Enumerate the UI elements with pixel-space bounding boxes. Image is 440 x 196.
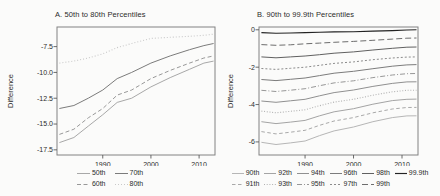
panel-b: B. 90th to 99.9th Percentiles Difference…	[220, 0, 440, 196]
legend-line-sample-97th	[330, 181, 342, 188]
legend-item-94th: 94th	[297, 168, 325, 178]
legend-label-80th: 80th	[130, 179, 144, 189]
legend-line-sample-94th	[297, 170, 309, 177]
legend-item-70th: 70th	[115, 168, 144, 178]
y-tick-label: -12.5	[37, 95, 53, 102]
y-tick-label: -17.5	[37, 146, 53, 153]
panel-b-legend: 90th91th92th93th94th95th96th97th98th99th…	[220, 168, 440, 189]
legend-label-97th: 97th	[344, 179, 358, 189]
legend-line-sample-80th	[115, 181, 128, 188]
legend-label-94th: 94th	[311, 168, 325, 178]
y-tick-label: -6	[249, 138, 255, 145]
legend-item-98th: 98th	[362, 168, 390, 178]
legend-label-96th: 96th	[344, 168, 358, 178]
x-tick-label: 2000	[346, 161, 362, 167]
panel-a-plot: -7.5-10.0-12.5-15.0-17.5199020002010	[0, 0, 220, 166]
legend-line-sample-93th	[264, 181, 276, 188]
x-tick-label: 1990	[297, 161, 313, 167]
legend-label-60th: 60th	[92, 179, 106, 189]
legend-label-70th: 70th	[130, 168, 144, 178]
series-line-70th	[59, 44, 213, 109]
legend-label-99.9th: 99.9th	[409, 168, 428, 178]
panel-a-legend: 50th60th70th80th	[0, 168, 220, 189]
legend-line-sample-99.9th	[395, 170, 407, 177]
legend-line-sample-50th	[77, 170, 90, 177]
y-tick-label: -10.0	[37, 69, 53, 76]
legend-label-92th: 92th	[278, 168, 292, 178]
legend-line-sample-90th	[232, 170, 244, 177]
legend-item-95th: 95th	[297, 179, 325, 189]
legend-label-98th: 98th	[376, 168, 390, 178]
legend-item-90th: 90th	[232, 168, 260, 178]
legend-item-80th: 80th	[115, 179, 144, 189]
legend-item-50th: 50th	[77, 168, 106, 178]
series-line-50th	[59, 61, 213, 143]
legend-label-50th: 50th	[92, 168, 106, 178]
series-line-99.9th	[261, 30, 416, 33]
legend-label-90th: 90th	[246, 168, 260, 178]
legend-label-91th: 91th	[246, 179, 260, 189]
legend-line-sample-98th	[362, 170, 374, 177]
series-line-94th	[261, 82, 416, 103]
legend-line-sample-60th	[77, 181, 90, 188]
legend-item-97th: 97th	[330, 179, 358, 189]
legend-item-99.9th: 99.9th	[395, 168, 428, 178]
legend-line-sample-95th	[297, 181, 309, 188]
legend-item-96th: 96th	[330, 168, 358, 178]
legend-label-95th: 95th	[311, 179, 325, 189]
x-tick-label: 2000	[143, 161, 159, 167]
y-tick-label: -15.0	[37, 120, 53, 127]
series-line-99th	[261, 38, 416, 45]
y-tick-label: -4	[249, 101, 255, 108]
y-tick-label: -2	[249, 64, 255, 71]
legend-label-93th: 93th	[278, 179, 292, 189]
y-tick-label: -7.5	[41, 43, 53, 50]
panel-b-plot: 0-2-4-6199020002010	[220, 0, 440, 166]
legend-line-sample-99th	[362, 181, 374, 188]
plot-frame	[57, 27, 215, 155]
series-line-96th	[261, 65, 416, 81]
legend-item-91th: 91th	[232, 179, 260, 189]
y-tick-label: 0	[251, 26, 255, 33]
legend-label-99th: 99th	[376, 179, 390, 189]
x-tick-label: 2010	[394, 161, 410, 167]
legend-item-93th: 93th	[264, 179, 292, 189]
legend-line-sample-70th	[115, 170, 128, 177]
legend-line-sample-96th	[330, 170, 342, 177]
panel-a: A. 50th to 80th Percentiles Difference -…	[0, 0, 220, 196]
series-line-98th	[261, 47, 416, 58]
legend-item-99th: 99th	[362, 179, 390, 189]
series-line-95th	[261, 74, 416, 92]
legend-line-sample-92th	[264, 170, 276, 177]
series-line-97th	[261, 57, 416, 70]
legend-line-sample-91th	[232, 181, 244, 188]
x-tick-label: 1990	[95, 161, 111, 167]
series-line-80th	[59, 34, 213, 63]
legend-item-92th: 92th	[264, 168, 292, 178]
x-tick-label: 2010	[191, 161, 207, 167]
legend-item-60th: 60th	[77, 179, 106, 189]
